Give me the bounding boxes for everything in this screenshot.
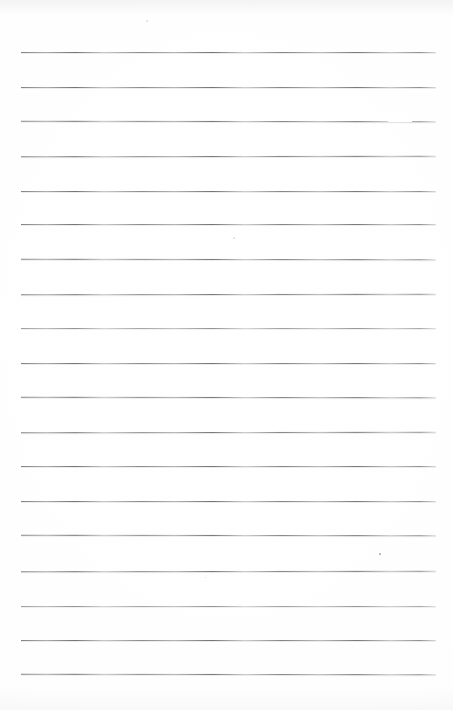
- ruled-line-14: [21, 501, 436, 502]
- speck-lower-right: [379, 553, 381, 555]
- ruled-line-8: [21, 293, 436, 294]
- scanned-page: [0, 0, 453, 710]
- ruled-line-9: [21, 327, 436, 328]
- paper-surface: [0, 0, 453, 710]
- ruled-line-16: [21, 570, 436, 571]
- ruled-line-7: [21, 258, 436, 259]
- ruled-line-12: [21, 431, 436, 432]
- ruled-line-19: [21, 674, 436, 675]
- ruled-line-4: [21, 156, 436, 157]
- ruled-line-17: [21, 606, 436, 607]
- ruled-line-11: [21, 397, 436, 398]
- ruled-line-10: [21, 362, 436, 363]
- speck-mid-page: [233, 237, 235, 239]
- speck-upper-left: [146, 20, 148, 22]
- ruled-line-13: [21, 466, 436, 467]
- ruled-line-2: [21, 86, 436, 87]
- ruled-line-5: [21, 190, 436, 191]
- ruled-line-3: [21, 121, 436, 122]
- ruled-line-dropout-gap: [388, 119, 412, 122]
- ruled-line-1: [21, 52, 436, 53]
- speck-mid-right: [205, 577, 206, 578]
- ruled-line-18: [21, 640, 436, 641]
- ruled-line-6: [21, 224, 436, 225]
- ruled-line-15: [21, 535, 436, 536]
